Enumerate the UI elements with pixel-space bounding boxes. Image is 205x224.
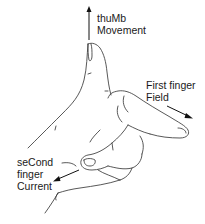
- first-finger-label-line2: Field: [146, 91, 196, 103]
- second-finger-label: seCond finger Current: [17, 156, 53, 192]
- thumb-label-line2: Movement: [97, 24, 146, 36]
- thumb-arrow-icon: [87, 6, 92, 40]
- thumb-label: thuMb Movement: [97, 12, 146, 36]
- left-hand-rule-diagram: thuMb Movement First finger Field seCond…: [0, 0, 205, 224]
- second-finger-label-line3: Current: [17, 180, 53, 192]
- second-finger-label-line2: finger: [17, 168, 53, 180]
- second-finger-label-line1: seCond: [17, 156, 53, 168]
- first-finger-arrow-icon: [167, 106, 193, 119]
- thumb-label-line1: thuMb: [97, 12, 146, 24]
- first-finger-label: First finger Field: [146, 79, 196, 103]
- first-finger-label-line1: First finger: [146, 79, 196, 91]
- second-finger-arrow-icon: [53, 170, 79, 182]
